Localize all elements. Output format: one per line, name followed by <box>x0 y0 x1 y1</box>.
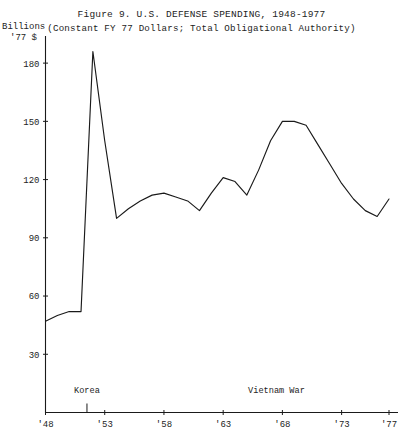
x-tick-label: '58 <box>156 420 172 430</box>
x-tick-label: '48 <box>37 420 53 430</box>
y-tick-group: 306090120150180 <box>23 60 48 361</box>
y-tick-label: 30 <box>29 351 40 361</box>
x-tick-label: '77 <box>381 420 397 430</box>
x-tick-label: '68 <box>274 420 290 430</box>
y-tick-label: 90 <box>29 234 40 244</box>
x-axis: '48'53'58'63'68'73'77 <box>37 410 398 430</box>
x-tick-label: '63 <box>215 420 231 430</box>
x-tick-label: '53 <box>97 420 113 430</box>
x-tick-label: '73 <box>334 420 350 430</box>
annotation-label: Vietnam War <box>248 386 305 396</box>
y-axis: 306090120150180 <box>23 36 48 413</box>
y-tick-label: 120 <box>23 176 39 186</box>
line-chart-plot: 306090120150180 '48'53'58'63'68'73'77 Ko… <box>0 0 403 435</box>
figure-container: Figure 9. U.S. DEFENSE SPENDING, 1948-19… <box>0 0 403 435</box>
y-tick-label: 60 <box>29 292 40 302</box>
defense-spending-line <box>46 51 390 321</box>
y-tick-label: 150 <box>23 118 39 128</box>
annotation-group: KoreaVietnam War <box>74 386 305 413</box>
annotation-label: Korea <box>74 386 100 396</box>
y-tick-label: 180 <box>23 60 39 70</box>
